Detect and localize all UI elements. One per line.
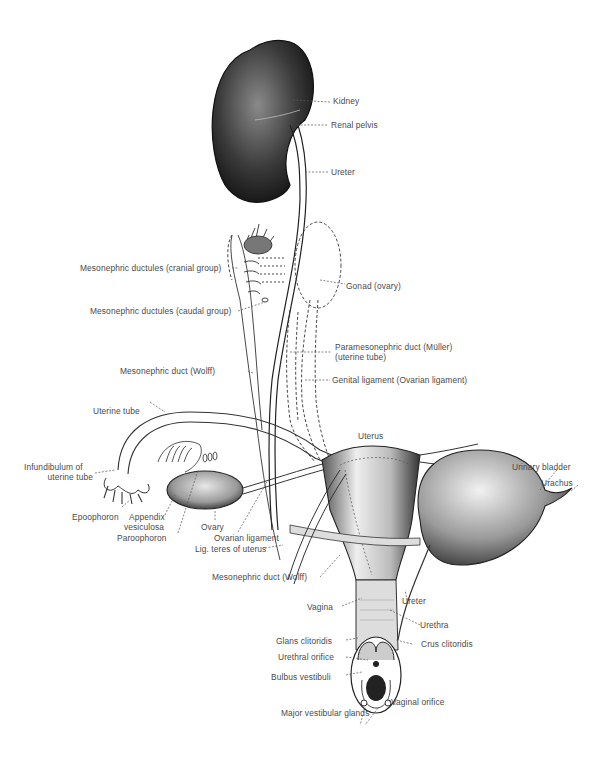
label-urethra: Urethra [420,620,449,630]
label-uterus: Uterus [358,431,383,441]
label-mesonephric-ductules-caudal: Mesonephric ductules (caudal group) [90,306,231,316]
label-paramesonephric-duct-uterine-tube: (uterine tube) [335,352,386,362]
label-genital-ligament: Genital ligament (Ovarian ligament) [332,375,467,385]
label-epoophoron: Epoophoron [72,512,119,522]
label-appendix-vesiculosa-line1: Appendix [129,512,165,522]
label-vaginal-orifice: Vaginal orifice [391,697,444,707]
label-infundibulum-line2: uterine tube [24,472,93,482]
label-infundibulum-line1: Infundibulum of [24,462,83,472]
label-glans-clitoridis: Glans clitoridis [276,636,332,646]
epoophoron-drawing [158,441,217,472]
kidney-drawing [212,40,313,530]
label-crus-clitoridis: Crus clitoridis [421,639,473,649]
ovarian-ligament-drawing [243,462,330,488]
label-ureter-upper: Ureter [331,167,355,177]
label-vagina: Vagina [307,602,333,612]
label-ovary: Ovary [201,522,224,532]
label-paramesonephric-duct: Paramesonephric duct (Müller) [335,342,452,352]
label-ureter-lower: Ureter [402,596,426,606]
label-mesonephric-ductules-cranial: Mesonephric ductules (cranial group) [80,263,221,273]
label-urinary-bladder: Urinary bladder [512,462,571,472]
label-paroophoron: Paroophoron [117,533,167,543]
gonad-outline [287,222,341,462]
label-appendix-vesiculosa-line2: vesiculosa [124,522,164,532]
label-uterine-tube: Uterine tube [93,406,140,416]
label-mesonephric-duct-lower: Mesonephric duct (Wolff) [212,572,307,582]
label-major-vestibular-glands: Major vestibular glands [281,708,369,718]
label-renal-pelvis: Renal pelvis [331,120,378,130]
label-urachus: Urachus [541,478,573,488]
label-lig-teres-uteri: Lig. teres of uterus [195,544,266,554]
label-bulbus-vestibuli: Bulbus vestibuli [271,672,331,682]
label-kidney: Kidney [333,96,359,106]
label-mesonephric-duct-upper: Mesonephric duct (Wolff) [120,366,215,376]
label-urethral-orifice: Urethral orifice [278,652,334,662]
label-ovarian-ligament: Ovarian ligament [214,533,279,543]
leader-lines [95,100,578,725]
ovary-drawing [167,471,243,509]
label-gonad-ovary: Gonad (ovary) [346,281,401,291]
